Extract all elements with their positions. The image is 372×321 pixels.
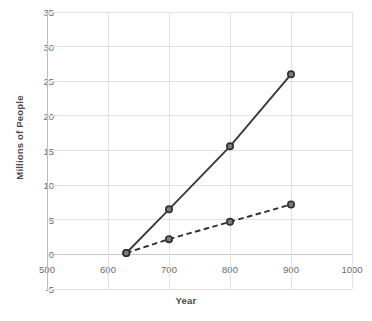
data-point-marker [288,201,294,207]
data-series [123,71,294,256]
data-point-marker [123,250,129,256]
gridlines [47,12,352,289]
data-point-marker [166,236,172,242]
series-line-solid-series [126,74,291,253]
data-point-marker [166,206,172,212]
data-point-marker [227,219,233,225]
plot-area [0,0,372,321]
data-point-marker [288,71,294,77]
data-point-marker [227,143,233,149]
line-chart: Millions of People Year -505101520253035… [0,0,372,321]
